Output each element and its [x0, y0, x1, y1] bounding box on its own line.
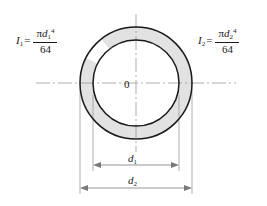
formula-right-var-exponent: 4 [233, 27, 237, 35]
origin-label: 0 [124, 78, 130, 90]
formula-right-fraction: πd24 64 [215, 28, 239, 55]
formula-right-denominator: 64 [215, 43, 239, 55]
formula-left-fraction: πd14 64 [33, 28, 57, 55]
dimension-label-d1-subscript: 1 [134, 158, 138, 166]
formula-left-lhs: I1= [16, 35, 31, 48]
arrowhead-d1-right [171, 162, 179, 168]
formula-left-symbol-subscript: 1 [20, 40, 24, 48]
dimension-label-d1: d1 [128, 152, 137, 166]
formula-right-lhs: I2= [198, 35, 213, 48]
formula-left-var-exponent: 4 [51, 27, 55, 35]
formula-left-denominator: 64 [33, 43, 57, 55]
formula-right-symbol-subscript: 2 [202, 40, 206, 48]
dimension-label-d2-subscript: 2 [134, 180, 138, 188]
annulus-figure: I1= πd14 64 I2= πd24 64 0 d1 d2 [0, 0, 267, 206]
formula-left-I1: I1= πd14 64 [16, 28, 57, 55]
arrowhead-d1-left [93, 162, 101, 168]
formula-left-equals: = [24, 34, 30, 46]
arrowhead-d2-left [80, 185, 88, 191]
arrowhead-d2-right [184, 185, 192, 191]
formula-right-I2: I2= πd24 64 [198, 28, 239, 55]
formula-right-numerator: πd24 [215, 28, 239, 43]
formula-right-equals: = [206, 34, 212, 46]
dimension-label-d2: d2 [128, 174, 137, 188]
formula-left-numerator: πd14 [33, 28, 57, 43]
